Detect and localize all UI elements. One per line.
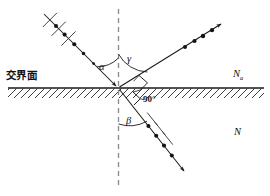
angle-arc-gamma [119,54,148,72]
interface-hatching [8,89,264,98]
interface-label: 交界面 [6,70,37,81]
reflected-ray [120,24,222,87]
right-angle-label: 90° [143,95,156,104]
angle-of-reflection-label: γ [127,54,131,65]
medium-upper-subscript: a [240,74,243,81]
medium-upper-symbol: N [233,68,240,79]
medium-lower-label: N [234,127,241,138]
medium-upper-label: Na [233,69,243,82]
incident-ray [43,13,116,86]
figure-canvas: 交界面 α γ β 90° Na N [0,0,270,196]
ray-diagram-svg [0,0,270,196]
angle-of-incidence-label: α [99,62,105,73]
angle-of-refraction-label: β [126,116,131,127]
angle-arc-beta [119,121,148,126]
